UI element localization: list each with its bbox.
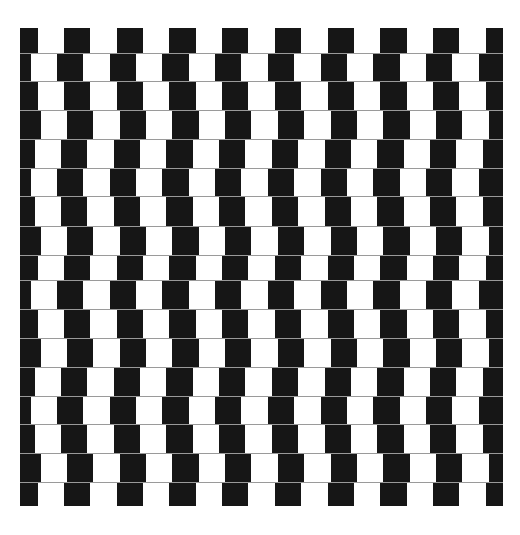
tile-row <box>20 53 503 81</box>
black-tile <box>120 226 146 255</box>
black-tile <box>166 367 192 396</box>
black-tile <box>166 424 192 453</box>
black-tile <box>219 196 245 226</box>
mortar-line <box>20 168 503 169</box>
black-tile <box>486 28 503 53</box>
black-tile <box>64 309 90 338</box>
black-tile <box>169 482 195 506</box>
black-tile <box>162 168 188 196</box>
mortar-line <box>20 424 503 425</box>
black-tile <box>169 81 195 110</box>
black-tile <box>114 424 140 453</box>
black-tile <box>383 338 409 367</box>
black-tile <box>120 338 146 367</box>
black-tile <box>436 110 462 139</box>
black-tile <box>373 396 399 424</box>
black-tile <box>278 110 304 139</box>
black-tile <box>278 226 304 255</box>
black-tile <box>268 396 294 424</box>
black-tile <box>479 396 503 424</box>
black-tile <box>114 139 140 168</box>
black-tile <box>172 110 198 139</box>
black-tile <box>321 168 347 196</box>
black-tile <box>373 168 399 196</box>
black-tile <box>225 110 251 139</box>
black-tile <box>215 280 241 309</box>
black-tile <box>169 28 195 53</box>
mortar-line <box>20 396 503 397</box>
black-tile <box>272 139 298 168</box>
black-tile <box>166 196 192 226</box>
black-tile <box>328 28 354 53</box>
black-tile <box>377 196 403 226</box>
black-tile <box>57 396 83 424</box>
black-tile <box>268 280 294 309</box>
black-tile <box>331 453 357 482</box>
black-tile <box>64 28 90 53</box>
black-tile <box>328 81 354 110</box>
tile-row <box>20 482 503 506</box>
black-tile <box>380 81 406 110</box>
black-tile <box>275 482 301 506</box>
black-tile <box>483 196 503 226</box>
black-tile <box>20 482 38 506</box>
black-tile <box>219 424 245 453</box>
black-tile <box>377 367 403 396</box>
black-tile <box>433 81 459 110</box>
black-tile <box>20 28 38 53</box>
mortar-line <box>20 255 503 256</box>
black-tile <box>373 53 399 81</box>
tile-row <box>20 367 503 396</box>
black-tile <box>172 453 198 482</box>
mortar-line <box>20 309 503 310</box>
black-tile <box>430 424 456 453</box>
black-tile <box>162 53 188 81</box>
tile-row <box>20 168 503 196</box>
black-tile <box>169 255 195 280</box>
black-tile <box>172 338 198 367</box>
tile-row <box>20 110 503 139</box>
black-tile <box>162 280 188 309</box>
black-tile <box>117 28 143 53</box>
tile-row <box>20 338 503 367</box>
black-tile <box>275 255 301 280</box>
black-tile <box>20 139 35 168</box>
black-tile <box>426 168 452 196</box>
black-tile <box>166 139 192 168</box>
black-tile <box>20 453 41 482</box>
black-tile <box>325 196 351 226</box>
black-tile <box>20 196 35 226</box>
black-tile <box>426 53 452 81</box>
black-tile <box>479 168 503 196</box>
black-tile <box>436 338 462 367</box>
black-tile <box>426 396 452 424</box>
black-tile <box>169 309 195 338</box>
black-tile <box>272 196 298 226</box>
black-tile <box>117 309 143 338</box>
black-tile <box>479 280 503 309</box>
tile-row <box>20 453 503 482</box>
black-tile <box>114 196 140 226</box>
black-tile <box>373 280 399 309</box>
black-tile <box>67 453 93 482</box>
black-tile <box>430 367 456 396</box>
black-tile <box>61 139 87 168</box>
black-tile <box>328 482 354 506</box>
black-tile <box>380 309 406 338</box>
black-tile <box>268 168 294 196</box>
black-tile <box>489 110 503 139</box>
black-tile <box>479 53 503 81</box>
black-tile <box>61 367 87 396</box>
black-tile <box>486 255 503 280</box>
black-tile <box>215 396 241 424</box>
tile-row <box>20 396 503 424</box>
black-tile <box>436 453 462 482</box>
black-tile <box>377 139 403 168</box>
black-tile <box>433 28 459 53</box>
black-tile <box>489 453 503 482</box>
black-tile <box>328 309 354 338</box>
tile-row <box>20 28 503 53</box>
black-tile <box>486 482 503 506</box>
black-tile <box>225 453 251 482</box>
black-tile <box>110 168 136 196</box>
